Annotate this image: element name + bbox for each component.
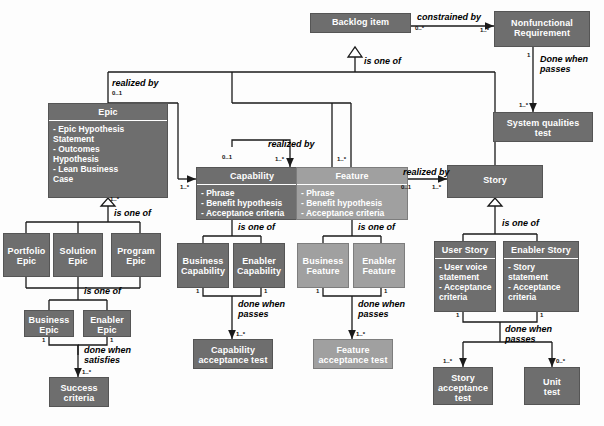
- node-nonfunctional-requirement[interactable]: Nonfunctional Requirement: [494, 11, 590, 47]
- node-title: Enabler Story: [504, 242, 578, 259]
- node-attributes: - Epic Hypothesis Statement - Outcomes H…: [49, 121, 167, 187]
- node-title: System qualities test: [494, 113, 592, 141]
- label-is-one-of-capability: is one of: [238, 222, 275, 232]
- node-title: Capability: [197, 168, 307, 185]
- mult-enabler-story-source: 1: [540, 312, 543, 318]
- label-constrained-by: constrained by: [417, 12, 481, 22]
- node-attributes: - Phrase - Benefit hypothesis - Acceptan…: [297, 185, 407, 221]
- mult-feature-target-right: 1..*: [337, 156, 346, 162]
- mult-system-qualities-target: 1..*: [519, 102, 528, 108]
- node-title: Portfolio Epic: [4, 234, 49, 269]
- label-done-when-passes-capability: done when passes: [238, 299, 285, 319]
- mult-capability-realized-source: 0..1: [222, 154, 232, 160]
- node-title: Program Epic: [112, 234, 160, 269]
- node-system-qualities-test[interactable]: System qualities test: [493, 112, 593, 142]
- mult-unit-test-target: 0..*: [556, 358, 565, 364]
- label-done-when-passes-story: done when passes: [505, 324, 552, 344]
- node-enabler-feature[interactable]: Enabler Feature: [353, 243, 405, 288]
- node-title: Enabler Capability: [234, 244, 284, 279]
- node-title: Business Capability: [178, 244, 228, 279]
- node-business-feature[interactable]: Business Feature: [297, 243, 349, 288]
- node-title: Success criteria: [50, 378, 108, 406]
- node-business-epic[interactable]: Business Epic: [24, 310, 74, 337]
- node-title: Business Feature: [298, 244, 348, 279]
- node-title: Capability acceptance test: [194, 340, 272, 368]
- label-realized-by-epic: realized by: [112, 78, 159, 88]
- node-feature[interactable]: Feature - Phrase - Benefit hypothesis - …: [296, 167, 408, 220]
- node-title: Story acceptance test: [434, 368, 492, 406]
- node-portfolio-epic[interactable]: Portfolio Epic: [3, 233, 50, 277]
- mult-story-test-target: 1..*: [443, 358, 452, 364]
- mult-success-criteria-target: 1..*: [82, 369, 91, 375]
- node-program-epic[interactable]: Program Epic: [111, 233, 161, 277]
- node-story-acceptance-test[interactable]: Story acceptance test: [433, 367, 493, 405]
- mult-nfr-target: 1..*: [480, 27, 489, 33]
- node-title: Backlog item: [311, 14, 410, 30]
- mult-nfr-source: 1: [527, 52, 530, 58]
- node-backlog-item[interactable]: Backlog item: [310, 13, 411, 33]
- mult-business-capability-source: 1: [196, 288, 199, 294]
- node-epic[interactable]: Epic - Epic Hypothesis Statement - Outco…: [48, 103, 168, 198]
- mult-business-epic-source: 1: [42, 337, 45, 343]
- mult-enabler-capability-source: 1: [264, 288, 267, 294]
- node-capability[interactable]: Capability - Phrase - Benefit hypothesis…: [196, 167, 308, 220]
- label-done-when-passes-feature: done when passes: [358, 299, 405, 319]
- mult-capability-target: 1..*: [180, 184, 189, 190]
- node-enabler-epic[interactable]: Enabler Epic: [83, 310, 131, 337]
- node-user-story[interactable]: User Story - User voice statement - Acce…: [434, 241, 496, 312]
- diagram-canvas: Backlog item Nonfunctional Requirement S…: [0, 0, 604, 426]
- label-is-one-of-feature: is one of: [358, 222, 395, 232]
- node-feature-acceptance-test[interactable]: Feature acceptance test: [313, 339, 393, 369]
- label-done-when-passes-nfr: Done when passes: [540, 54, 588, 74]
- label-is-one-of-backlog: is one of: [364, 56, 401, 66]
- label-done-when-satisfies: done when satisfies: [84, 345, 131, 365]
- label-is-one-of-epic-2: is one of: [84, 286, 121, 296]
- label-realized-by-capability: realized by: [268, 139, 315, 149]
- label-is-one-of-epic: is one of: [114, 208, 151, 218]
- node-title: Enabler Feature: [354, 244, 404, 279]
- node-attributes: - Story statement - Acceptance criteria: [504, 259, 578, 305]
- node-solution-epic[interactable]: Solution Epic: [53, 233, 103, 277]
- node-story[interactable]: Story: [447, 165, 543, 198]
- node-enabler-story[interactable]: Enabler Story - Story statement - Accept…: [503, 241, 579, 312]
- node-title: Solution Epic: [54, 234, 102, 269]
- mult-feature-test-target: 1..*: [356, 331, 365, 337]
- mult-epic-realized-source: 0..1: [112, 90, 122, 96]
- node-title: Nonfunctional Requirement: [495, 12, 589, 41]
- mult-business-feature-source: 1: [316, 288, 319, 294]
- node-enabler-capability[interactable]: Enabler Capability: [233, 243, 285, 288]
- node-title: Feature: [297, 168, 407, 185]
- mult-capability-test-target: 1..*: [236, 331, 245, 337]
- label-realized-by-feature: realized by: [403, 167, 450, 177]
- node-title: Business Epic: [25, 311, 73, 338]
- mult-epic-generalization: 1..*: [110, 196, 119, 202]
- node-title: Epic: [49, 104, 167, 121]
- node-title: Feature acceptance test: [314, 340, 392, 368]
- node-success-criteria[interactable]: Success criteria: [49, 377, 109, 407]
- node-capability-acceptance-test[interactable]: Capability acceptance test: [193, 339, 273, 369]
- node-title: Story: [448, 166, 542, 188]
- label-is-one-of-story: is one of: [502, 218, 539, 228]
- node-title: Unit test: [525, 368, 579, 400]
- mult-story-target: 1..*: [432, 184, 441, 190]
- mult-feature-realized-source: 0..1: [401, 184, 411, 190]
- node-attributes: - Phrase - Benefit hypothesis - Acceptan…: [197, 185, 307, 221]
- node-business-capability[interactable]: Business Capability: [177, 243, 229, 288]
- node-title: Enabler Epic: [84, 311, 130, 338]
- mult-enabler-feature-source: 1: [384, 288, 387, 294]
- mult-enabler-epic-source: 1: [110, 337, 113, 343]
- node-unit-test[interactable]: Unit test: [524, 367, 580, 405]
- mult-user-story-source: 1: [456, 312, 459, 318]
- mult-backlog-constrained: 0..*: [415, 25, 424, 31]
- mult-feature-target-left: 1..*: [275, 156, 284, 162]
- node-title: User Story: [435, 242, 495, 259]
- node-attributes: - User voice statement - Acceptance crit…: [435, 259, 495, 305]
